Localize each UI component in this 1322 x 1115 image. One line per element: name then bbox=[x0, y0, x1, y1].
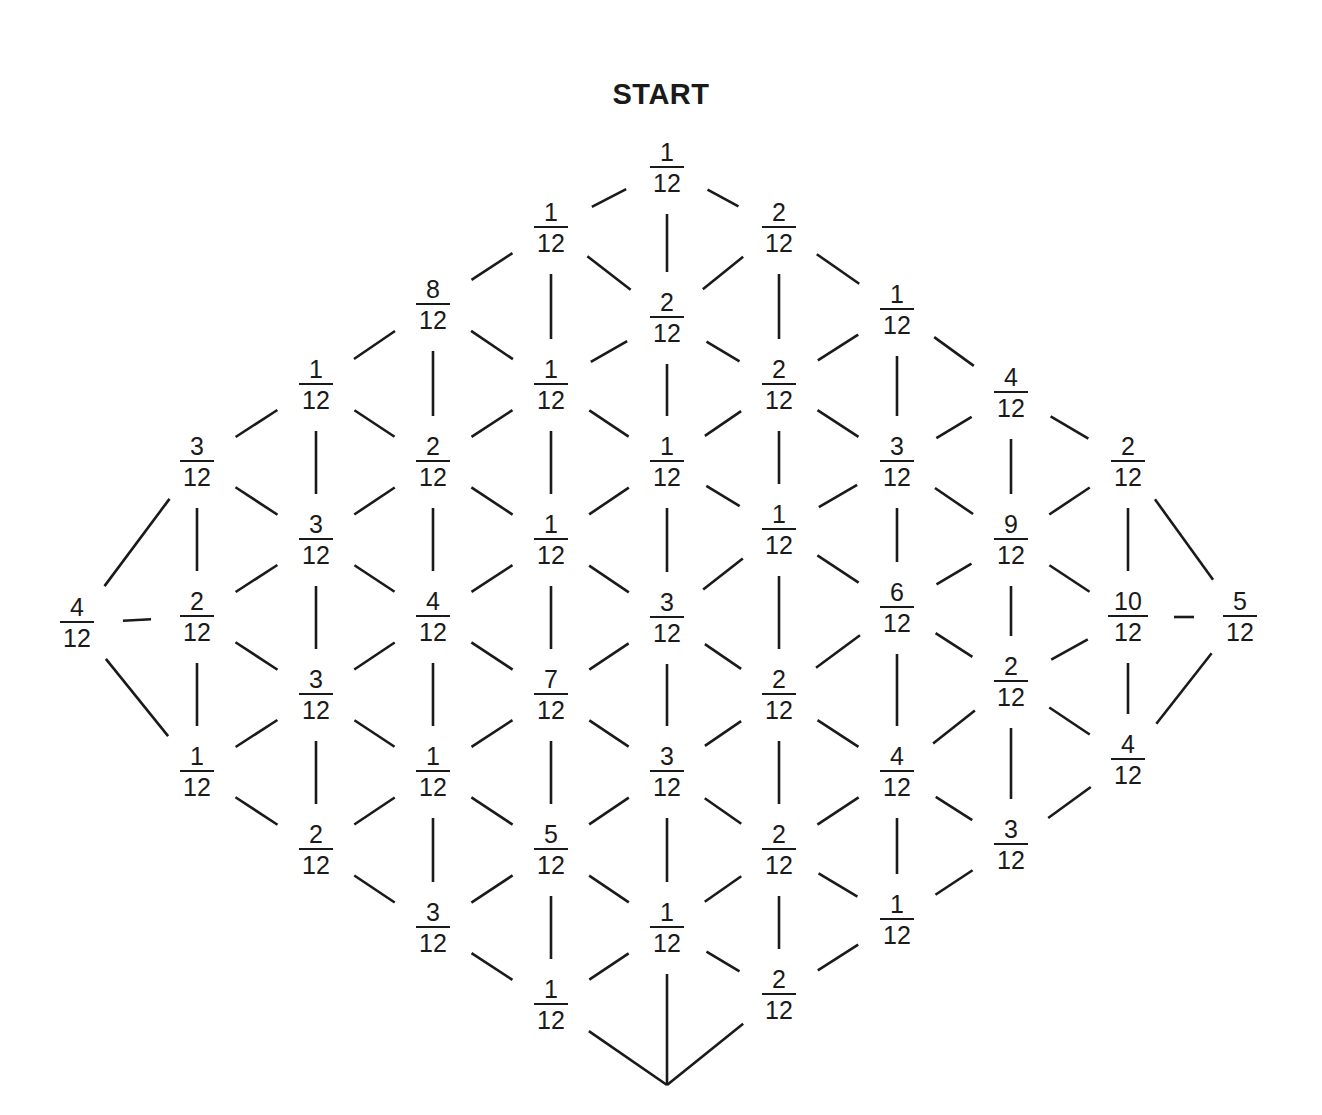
connection-line bbox=[1048, 787, 1091, 818]
denominator: 12 bbox=[403, 307, 463, 333]
fraction-node: 212 bbox=[1098, 433, 1158, 490]
numerator: 1 bbox=[637, 139, 697, 165]
fraction-bar bbox=[650, 926, 684, 928]
fraction-bar bbox=[534, 538, 568, 540]
fraction-bar bbox=[994, 680, 1028, 682]
numerator: 1 bbox=[637, 899, 697, 925]
connection-line bbox=[354, 798, 394, 825]
connection-line bbox=[816, 635, 860, 667]
connection-line bbox=[933, 711, 975, 744]
denominator: 12 bbox=[47, 625, 107, 651]
numerator: 3 bbox=[403, 899, 463, 925]
numerator: 1 bbox=[521, 199, 581, 225]
fraction-bar bbox=[762, 383, 796, 385]
denominator: 12 bbox=[637, 320, 697, 346]
fraction-node: 212 bbox=[286, 821, 346, 878]
connection-line bbox=[592, 189, 626, 207]
fraction-node: 712 bbox=[521, 666, 581, 723]
fraction-node: 512 bbox=[1210, 588, 1270, 645]
connection-line bbox=[705, 644, 741, 669]
fraction-node: 412 bbox=[1098, 731, 1158, 788]
fraction-node: 812 bbox=[403, 276, 463, 333]
fraction-node: 112 bbox=[167, 743, 227, 800]
denominator: 12 bbox=[637, 774, 697, 800]
numerator: 1 bbox=[521, 511, 581, 537]
fraction-bar bbox=[534, 1003, 568, 1005]
denominator: 12 bbox=[867, 464, 927, 490]
connection-line bbox=[708, 190, 739, 207]
numerator: 4 bbox=[1098, 731, 1158, 757]
denominator: 12 bbox=[167, 774, 227, 800]
fraction-bar bbox=[534, 226, 568, 228]
connection-line bbox=[236, 720, 278, 747]
numerator: 3 bbox=[867, 433, 927, 459]
connection-line bbox=[235, 487, 277, 515]
fraction-node: 512 bbox=[521, 821, 581, 878]
fraction-node: 312 bbox=[167, 433, 227, 490]
denominator: 12 bbox=[521, 852, 581, 878]
fraction-bar bbox=[762, 693, 796, 695]
connection-line bbox=[472, 720, 513, 747]
connection-line bbox=[706, 486, 739, 506]
fraction-node: 112 bbox=[637, 899, 697, 956]
fraction-node: 112 bbox=[521, 199, 581, 256]
connection-line bbox=[706, 952, 739, 972]
connection-line bbox=[589, 1031, 667, 1085]
fraction-bar bbox=[416, 926, 450, 928]
connection-line bbox=[817, 254, 859, 283]
connection-line bbox=[1049, 488, 1089, 515]
denominator: 12 bbox=[749, 532, 809, 558]
connection-line bbox=[818, 410, 859, 437]
denominator: 12 bbox=[286, 697, 346, 723]
denominator: 12 bbox=[521, 230, 581, 256]
fraction-node: 112 bbox=[403, 743, 463, 800]
numerator: 4 bbox=[47, 594, 107, 620]
denominator: 12 bbox=[981, 847, 1041, 873]
connection-line bbox=[589, 566, 629, 593]
denominator: 12 bbox=[403, 774, 463, 800]
connection-line bbox=[589, 876, 629, 903]
fraction-bar bbox=[650, 770, 684, 772]
fraction-bar bbox=[880, 308, 914, 310]
connection-line bbox=[817, 797, 858, 824]
connection-line bbox=[589, 410, 628, 436]
connection-line bbox=[472, 953, 513, 980]
numerator: 2 bbox=[403, 433, 463, 459]
denominator: 12 bbox=[403, 930, 463, 956]
denominator: 12 bbox=[286, 387, 346, 413]
connection-line bbox=[934, 337, 974, 366]
denominator: 12 bbox=[749, 997, 809, 1023]
connection-line bbox=[471, 331, 513, 359]
fraction-node: 312 bbox=[403, 899, 463, 956]
connection-line bbox=[703, 558, 743, 589]
fraction-node: 112 bbox=[521, 356, 581, 413]
connection-line bbox=[235, 642, 277, 670]
fraction-node: 312 bbox=[637, 589, 697, 646]
fraction-bar bbox=[650, 460, 684, 462]
connection-line bbox=[589, 720, 628, 746]
numerator: 9 bbox=[981, 511, 1041, 537]
fraction-bar bbox=[534, 383, 568, 385]
connection-line bbox=[354, 876, 394, 903]
denominator: 12 bbox=[167, 619, 227, 645]
denominator: 12 bbox=[521, 1007, 581, 1033]
fraction-bar bbox=[650, 616, 684, 618]
connection-line bbox=[472, 565, 513, 592]
fraction-node: 212 bbox=[749, 356, 809, 413]
connection-line bbox=[236, 565, 278, 592]
denominator: 12 bbox=[637, 170, 697, 196]
fraction-node: 112 bbox=[867, 891, 927, 948]
connection-line bbox=[354, 720, 394, 746]
numerator: 8 bbox=[403, 276, 463, 302]
connection-line bbox=[1049, 708, 1089, 735]
numerator: 2 bbox=[167, 588, 227, 614]
fraction-node: 212 bbox=[749, 666, 809, 723]
connection-line bbox=[936, 417, 971, 438]
fraction-bar bbox=[534, 693, 568, 695]
connection-line bbox=[818, 945, 858, 971]
denominator: 12 bbox=[521, 387, 581, 413]
fraction-node: 212 bbox=[749, 199, 809, 256]
fraction-node: 312 bbox=[286, 511, 346, 568]
fraction-node: 1012 bbox=[1098, 588, 1158, 645]
fraction-node: 412 bbox=[47, 594, 107, 651]
